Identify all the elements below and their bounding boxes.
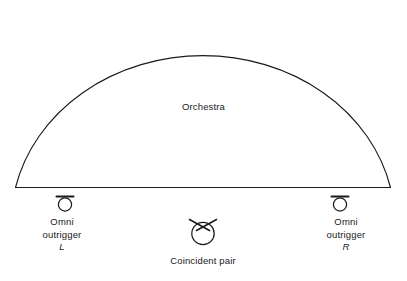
omni-left-line2: outrigger — [12, 229, 112, 242]
coincident-pair-label: Coincident pair — [153, 255, 253, 268]
orchestra-label: Orchestra — [0, 101, 407, 114]
diagram-canvas: Orchestra Omni outrigger L Omni outrigge… — [0, 0, 407, 281]
omni-right-channel: R — [296, 241, 396, 254]
omni-right-line2: outrigger — [296, 229, 396, 242]
orchestra-stage-outline — [16, 56, 391, 188]
omni-microphone-icon-left — [57, 197, 74, 212]
omni-left-channel: L — [12, 241, 112, 254]
omni-outrigger-right-label: Omni outrigger R — [296, 216, 396, 254]
omni-outrigger-left-label: Omni outrigger L — [12, 216, 112, 254]
omni-right-line1: Omni — [296, 216, 396, 229]
coincident-pair-microphone-icon — [190, 220, 217, 245]
omni-left-line1: Omni — [12, 216, 112, 229]
omni-microphone-icon-right — [332, 197, 349, 212]
